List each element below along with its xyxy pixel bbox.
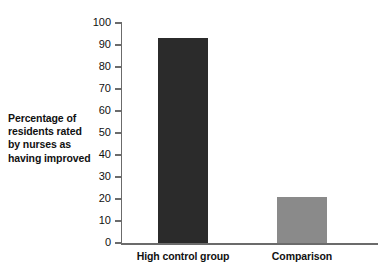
y-axis-tick-label-text: 40: [85, 149, 111, 160]
y-axis-tick-label-text: 70: [85, 83, 111, 94]
y-axis-tick-mark: [115, 154, 121, 155]
bar-chart: Percentage of residents rated by nurses …: [0, 0, 386, 273]
y-axis-tick-mark: [115, 44, 121, 45]
y-axis-tick-mark: [115, 88, 121, 89]
y-axis-tick-mark: [115, 22, 121, 23]
y-axis-tick-label: 50: [85, 127, 111, 138]
y-axis-tick-mark: [115, 176, 121, 177]
y-axis-tick-mark: [115, 198, 121, 199]
x-axis-line: [121, 243, 378, 245]
y-axis-tick-label-text: 10: [85, 215, 111, 226]
y-axis-tick-label-text: 0: [85, 237, 111, 248]
y-axis-tick-label: 90: [85, 39, 111, 50]
y-axis-tick-label: 70: [85, 83, 111, 94]
bar-comparison[interactable]: [277, 197, 327, 243]
y-axis-tick-mark: [115, 66, 121, 67]
y-axis-tick-label-text: 80: [85, 61, 111, 72]
y-axis-tick-label-text: 90: [85, 39, 111, 50]
y-axis-tick-mark: [115, 220, 121, 221]
y-axis-tick-label: 60: [85, 105, 111, 116]
y-axis-tick-label-text: 30: [85, 171, 111, 182]
y-axis-tick-mark: [115, 242, 121, 243]
y-axis-tick-label: 40: [85, 149, 111, 160]
x-axis-label-comparison: Comparison: [212, 250, 386, 262]
y-axis-tick-label: 0: [85, 237, 111, 248]
y-axis-tick-label: 10: [85, 215, 111, 226]
bar-high-control-group[interactable]: [158, 38, 208, 243]
y-axis-tick-mark: [115, 110, 121, 111]
y-axis-tick-label-text: 50: [85, 127, 111, 138]
y-axis-tick-label-text: 100: [85, 17, 111, 28]
y-axis-tick-label-text: 20: [85, 193, 111, 204]
y-axis-line: [121, 22, 122, 244]
y-axis-tick-label: 100: [85, 17, 111, 28]
y-axis-tick-label-text: 60: [85, 105, 111, 116]
y-axis-tick-mark: [115, 132, 121, 133]
y-axis-tick-label: 30: [85, 171, 111, 182]
y-axis-tick-label: 20: [85, 193, 111, 204]
y-axis-tick-label: 80: [85, 61, 111, 72]
